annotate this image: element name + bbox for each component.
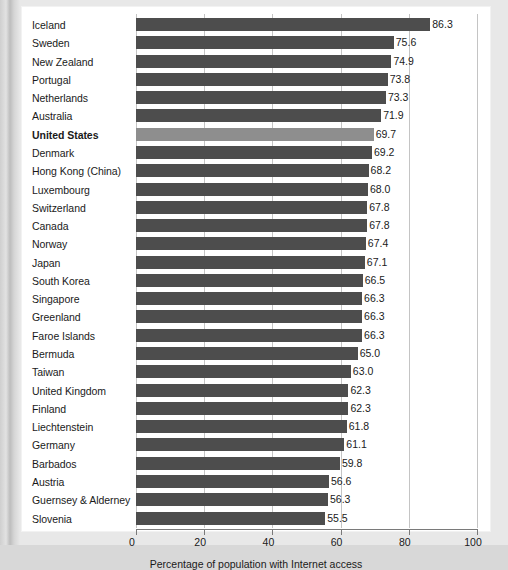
bar-value-label: 75.6 [394,34,416,52]
bar-row: Portugal73.8 [22,71,490,89]
bar-row: Guernsey & Alderney56.3 [22,491,490,509]
bar-value-label: 62.3 [348,382,370,400]
bar [136,420,347,433]
bar-row: Switzerland67.8 [22,199,490,217]
x-axis-line [136,529,478,530]
bar-value-label: 67.1 [365,254,387,272]
bar-row: Faroe Islands66.3 [22,327,490,345]
x-tick-20 [204,530,205,535]
bar-value-label: 71.9 [381,107,403,125]
bar-row: Denmark69.2 [22,144,490,162]
bar-value-label: 73.8 [388,71,410,89]
category-label: Guernsey & Alderney [32,491,132,509]
x-tick-label: 20 [180,536,220,548]
bar [136,310,362,323]
bar-value-label: 62.3 [348,400,370,418]
x-tick-label: 80 [385,536,425,548]
bar [136,146,372,159]
bar-value-label: 66.5 [363,272,385,290]
x-tick-label: 40 [248,536,288,548]
bar-value-label: 59.8 [340,455,362,473]
bar [136,256,365,269]
bar [136,475,329,488]
bar [136,384,348,397]
bar-row: Canada67.8 [22,217,490,235]
category-label: Sweden [32,34,132,52]
category-label: Austria [32,473,132,491]
category-label: Germany [32,436,132,454]
bar-value-label: 68.0 [368,181,390,199]
bar-row: Luxembourg68.0 [22,181,490,199]
category-label: Switzerland [32,199,132,217]
bar-value-label: 68.2 [369,162,391,180]
bar-row: Singapore66.3 [22,290,490,308]
bar-value-label: 61.8 [347,418,369,436]
bar [136,329,362,342]
x-tick-label: 0 [112,536,152,548]
category-label: New Zealand [32,53,132,71]
bar-row: Iceland86.3 [22,16,490,34]
bar-value-label: 66.3 [362,308,384,326]
category-label: Netherlands [32,89,132,107]
bar-row: Barbados59.8 [22,455,490,473]
bar-row: Australia71.9 [22,107,490,125]
x-tick-label: 100 [453,536,493,548]
category-label: Finland [32,400,132,418]
category-label: Luxembourg [32,181,132,199]
bar-value-label: 86.3 [430,16,452,34]
bar [136,438,344,451]
bar-value-label: 55.5 [325,510,347,528]
category-label: South Korea [32,272,132,290]
bar [136,18,430,31]
bar-row: New Zealand74.9 [22,53,490,71]
bar-row: Finland62.3 [22,400,490,418]
category-label: Japan [32,254,132,272]
bar [136,91,386,104]
bar-value-label: 66.3 [362,327,384,345]
category-label: Bermuda [32,345,132,363]
bar-value-label: 56.3 [328,491,350,509]
bar-value-label: 66.3 [362,290,384,308]
bar-row: Austria56.6 [22,473,490,491]
x-tick-100 [477,530,478,535]
bar [136,183,368,196]
bar [136,457,340,470]
bar [136,164,369,177]
bar [136,493,328,506]
bar-row: Taiwan63.0 [22,363,490,381]
category-label: United Kingdom [32,382,132,400]
bar-row: Sweden75.6 [22,34,490,52]
bar-value-label: 61.1 [344,436,366,454]
bar-value-label: 56.6 [329,473,351,491]
bar [136,219,367,232]
bar-value-label: 63.0 [351,363,373,381]
category-label: Iceland [32,16,132,34]
bar [136,512,325,525]
category-label: United States [32,126,132,144]
bar-row: Hong Kong (China)68.2 [22,162,490,180]
bar-row: Greenland66.3 [22,308,490,326]
bar-value-label: 74.9 [391,53,413,71]
category-label: Denmark [32,144,132,162]
bar [136,347,358,360]
category-label: Australia [32,107,132,125]
category-label: Greenland [32,308,132,326]
x-tick-label: 60 [317,536,357,548]
bar [136,201,367,214]
x-tick-0 [136,530,137,535]
bar-row: United States69.7 [22,126,490,144]
bar-row: Bermuda65.0 [22,345,490,363]
bar-value-label: 65.0 [358,345,380,363]
category-label: Hong Kong (China) [32,162,132,180]
bar-value-label: 67.8 [367,199,389,217]
category-label: Canada [32,217,132,235]
bar-value-label: 67.8 [367,217,389,235]
bar [136,292,362,305]
bar-value-label: 69.2 [372,144,394,162]
bar [136,55,391,68]
bar-row: Netherlands73.3 [22,89,490,107]
bar-value-label: 69.7 [374,126,396,144]
bar [136,237,366,250]
bar-row: United Kingdom62.3 [22,382,490,400]
